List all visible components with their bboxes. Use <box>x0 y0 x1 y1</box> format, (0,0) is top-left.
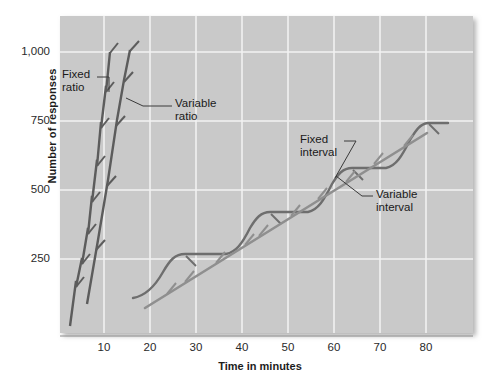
response-curves-chart <box>0 0 496 387</box>
x-tick-30: 30 <box>181 341 211 353</box>
x-tick-70: 70 <box>365 341 395 353</box>
x-tick-10: 10 <box>89 341 119 353</box>
figure-container: 1,000 750 500 250 10 20 30 40 50 60 70 8… <box>0 0 496 387</box>
x-tick-40: 40 <box>227 341 257 353</box>
annotation-fixed-ratio: Fixed ratio <box>62 68 90 94</box>
y-tick-1000: 1,000 <box>4 45 50 57</box>
y-tick-250: 250 <box>4 252 50 264</box>
x-tick-80: 80 <box>411 341 441 353</box>
annotation-variable-interval: Variable interval <box>376 188 417 214</box>
annotation-variable-ratio: Variable ratio <box>175 97 216 123</box>
x-axis-title: Time in minutes <box>160 360 360 372</box>
x-tick-60: 60 <box>319 341 349 353</box>
plot-area-background <box>60 16 473 333</box>
y-axis-title: Number of responses <box>46 46 58 206</box>
x-tick-20: 20 <box>135 341 165 353</box>
x-tick-50: 50 <box>273 341 303 353</box>
y-tick-750: 750 <box>4 114 50 126</box>
annotation-fixed-interval: Fixed interval <box>300 133 337 159</box>
y-tick-500: 500 <box>4 183 50 195</box>
